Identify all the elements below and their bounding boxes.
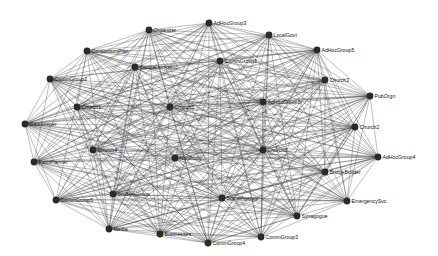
node-dot-icon[interactable] <box>53 197 60 204</box>
node-dot-icon[interactable] <box>206 20 213 27</box>
graph-edge <box>93 127 355 150</box>
graph-node-media[interactable]: Media <box>106 226 128 233</box>
node-dot-icon[interactable] <box>90 147 97 154</box>
node-dot-icon[interactable] <box>205 240 212 247</box>
graph-edge <box>175 23 209 158</box>
node-label: CommGroup3 <box>266 234 299 240</box>
node-dot-icon[interactable] <box>110 191 117 198</box>
node-label: Church4 <box>98 147 118 153</box>
node-label: Organizer <box>154 27 177 33</box>
node-label: SocialAgency <box>227 195 259 201</box>
node-dot-icon[interactable] <box>106 226 113 233</box>
node-label: Media <box>114 226 128 232</box>
graph-node-church6[interactable]: Church6 <box>260 147 288 154</box>
graph-node-gatekeeper[interactable]: Gatekeeper <box>22 121 57 128</box>
node-dot-icon[interactable] <box>172 155 179 162</box>
edge-layer <box>25 23 378 243</box>
node-label: ContractorAssoc <box>140 64 179 70</box>
node-label: FaithPlanner <box>39 159 69 165</box>
node-dot-icon[interactable] <box>266 32 273 39</box>
graph-node-church3[interactable]: Church3 <box>322 77 350 84</box>
node-dot-icon[interactable] <box>219 195 226 202</box>
node-dot-icon[interactable] <box>260 147 267 154</box>
node-label: Church2 <box>360 124 380 130</box>
node-label: Church3 <box>330 77 350 83</box>
node-dot-icon[interactable] <box>31 159 38 166</box>
network-diagram: AdHocGroup3OrganizerLocalGovtConsortiumP… <box>0 0 438 256</box>
graph-edge <box>50 51 87 79</box>
node-dot-icon[interactable] <box>258 234 265 241</box>
node-dot-icon[interactable] <box>47 76 54 83</box>
node-dot-icon[interactable] <box>217 58 224 65</box>
node-label: AdHocGroup3 <box>214 20 247 26</box>
node-dot-icon[interactable] <box>167 104 174 111</box>
graph-node-church5[interactable]: Church5 <box>167 104 195 111</box>
graph-node-adhocgroup4[interactable]: AdHocGroup4 <box>375 154 416 161</box>
node-label: CommGroup1 <box>225 58 258 64</box>
graph-edge <box>347 96 370 201</box>
graph-node-organizer[interactable]: Organizer <box>146 27 177 34</box>
node-dot-icon[interactable] <box>22 121 29 128</box>
node-label: LocalGovt <box>274 32 298 38</box>
node-dot-icon[interactable] <box>132 64 139 71</box>
node-label: NonProfit <box>180 155 202 161</box>
node-label: BridgeBuilder <box>330 169 361 175</box>
node-label: AdHocGroup4 <box>383 154 416 160</box>
node-dot-icon[interactable] <box>260 99 267 106</box>
graph-edge <box>261 201 347 237</box>
node-label: CommGroup2 <box>55 76 88 82</box>
node-label: Gatekeeper <box>30 121 57 127</box>
graph-node-church2[interactable]: Church2 <box>352 124 380 131</box>
node-label: CommGroup4 <box>213 240 246 246</box>
graph-node-localgovt[interactable]: LocalGovt <box>266 32 298 39</box>
graph-node-faithplanner[interactable]: FaithPlanner <box>31 159 69 166</box>
node-label: AdHocGroup1 <box>268 99 301 105</box>
node-label: Church1 <box>82 104 102 110</box>
graph-node-church4[interactable]: Church4 <box>90 147 118 154</box>
node-label: StudentGroup <box>118 191 150 197</box>
node-dot-icon[interactable] <box>314 47 321 54</box>
graph-node-emergencysvc[interactable]: EmergencySvc <box>344 198 387 205</box>
node-dot-icon[interactable] <box>367 93 374 100</box>
node-label: EmergencySvc <box>352 198 387 204</box>
node-label: Synagogue <box>302 213 328 219</box>
node-dot-icon[interactable] <box>322 169 329 176</box>
node-dot-icon[interactable] <box>375 154 382 161</box>
node-label: CommGroup5 <box>61 197 94 203</box>
graph-edge <box>34 162 56 200</box>
graph-node-nonprofit[interactable]: NonProfit <box>172 155 202 162</box>
node-label: AdHocGroup5 <box>322 47 355 53</box>
node-label: Businesses <box>165 231 192 237</box>
graph-edge <box>317 50 355 127</box>
graph-node-businesses[interactable]: Businesses <box>157 231 192 238</box>
graph-node-synagogue[interactable]: Synagogue <box>294 213 328 220</box>
node-dot-icon[interactable] <box>157 231 164 238</box>
node-label: Church6 <box>268 147 288 153</box>
node-label: Church5 <box>175 104 195 110</box>
graph-node-puborgn[interactable]: PubOrgn <box>367 93 396 100</box>
node-dot-icon[interactable] <box>74 104 81 111</box>
node-dot-icon[interactable] <box>344 198 351 205</box>
node-dot-icon[interactable] <box>322 77 329 84</box>
node-dot-icon[interactable] <box>294 213 301 220</box>
graph-edge <box>149 30 325 80</box>
node-dot-icon[interactable] <box>146 27 153 34</box>
node-dot-icon[interactable] <box>352 124 359 131</box>
node-label: PubOrgn <box>375 93 396 99</box>
graph-node-church1[interactable]: Church1 <box>74 104 102 111</box>
graph-edge <box>297 157 378 216</box>
graph-node-contractorassoc[interactable]: ContractorAssoc <box>132 64 179 71</box>
node-label: ConsortiumPlan <box>92 48 129 54</box>
graph-edge <box>34 162 160 234</box>
node-dot-icon[interactable] <box>84 48 91 55</box>
